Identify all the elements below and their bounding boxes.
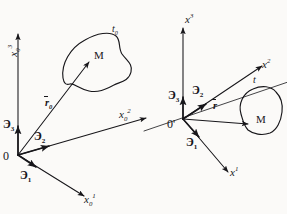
basis-label-left-e1: Э1 — [20, 170, 31, 184]
axis-label-left-x2: x02 — [119, 108, 131, 123]
vector-right-r — [183, 119, 248, 124]
point-label-left-M: M — [94, 50, 104, 61]
vector-left-r0 — [18, 62, 89, 155]
basis-label-right-e2: Э2 — [192, 85, 203, 99]
basis-label-left-e2: Э2 — [34, 131, 45, 145]
basis-label-right-e3: Э3 — [168, 90, 179, 104]
diagram-vector-layer — [0, 0, 287, 214]
point-label-right-M: M — [256, 114, 266, 125]
vector-label-right-r: r — [213, 101, 217, 112]
axis-label-left-x3: x03 — [7, 45, 22, 57]
body-current-outline — [240, 87, 282, 135]
axis-label-right-x1: x1 — [230, 166, 238, 178]
basis-left-e2 — [18, 146, 49, 155]
basis-label-right-e1: Э1 — [186, 137, 197, 151]
basis-left-e1 — [18, 155, 36, 167]
body-label-current: t — [253, 75, 256, 85]
basis-right-e1 — [183, 119, 199, 137]
basis-label-left-e3: Э3 — [3, 119, 14, 133]
origin-label-left: 0 — [3, 150, 9, 162]
axis-label-right-x3: x3 — [185, 13, 193, 25]
figure-canvas-root: x03 x02 x01 Э3 Э2 Э1 0 r0 M t0 x3 x2 x1 … — [0, 0, 287, 214]
body-label-reference: t0 — [112, 24, 118, 36]
origin-label-right: 0' — [167, 118, 175, 130]
vector-label-left-r0: r0 — [45, 98, 52, 111]
axis-label-right-x2: x2 — [262, 58, 270, 70]
axis-label-left-x1: x01 — [84, 193, 96, 208]
